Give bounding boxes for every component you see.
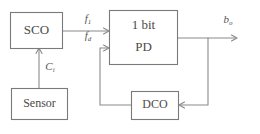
block-sco-label: SCO (24, 22, 49, 37)
signal-label-c: Ci (45, 60, 54, 74)
signal-f1-sub: 1 (88, 18, 92, 26)
signal-c-sub: i (53, 66, 55, 74)
block-dco-label: DCO (142, 97, 168, 111)
block-1bit-pd-label-line2: PD (135, 39, 152, 54)
block-diagram-canvas: SCO Sensor 1 bit PD DCO f1 fd Ci bo (0, 0, 260, 134)
wire-output-feedback-to-dco (180, 38, 208, 105)
block-diagram-svg: SCO Sensor 1 bit PD DCO f1 fd Ci bo (0, 0, 260, 134)
block-sensor-label: Sensor (23, 96, 56, 110)
signal-label-bo: bo (224, 13, 234, 27)
signal-bo-sub: o (229, 19, 233, 27)
signal-fd-sub: d (88, 35, 92, 43)
block-1bit-pd-label-line1: 1 bit (132, 17, 156, 32)
signal-label-f1: f1 (85, 12, 92, 26)
